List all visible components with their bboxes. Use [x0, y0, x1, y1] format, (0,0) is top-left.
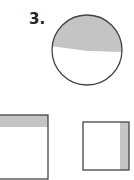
square-shaded-strip: [120, 122, 129, 170]
shaded-square: [83, 122, 129, 170]
rectangle-shaded-strip: [0, 115, 48, 127]
shaded-rectangle: [0, 115, 48, 179]
shaded-circle: [50, 12, 124, 85]
figures-canvas: [0, 0, 134, 180]
circle-shaded-region: [50, 12, 124, 52]
